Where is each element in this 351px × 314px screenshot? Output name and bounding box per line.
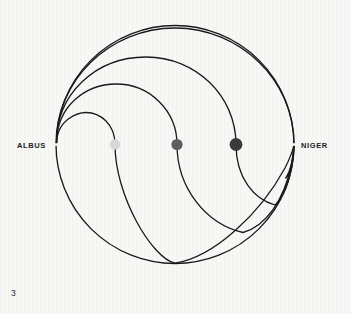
- curve-inner: [57, 113, 295, 264]
- tone-node-1: [110, 140, 120, 150]
- niger-pole-label: NIGER: [301, 141, 328, 150]
- figure-page: ALBUS NIGER 3: [0, 0, 351, 314]
- tone-node-2: [171, 139, 182, 150]
- albus-pole-label: ALBUS: [17, 141, 46, 150]
- gradation-diagram: [0, 0, 351, 314]
- figure-number-caption: 3: [11, 288, 16, 298]
- curve-second: [56, 84, 294, 233]
- curve-outer: [56, 28, 294, 179]
- tone-node-3: [230, 138, 243, 151]
